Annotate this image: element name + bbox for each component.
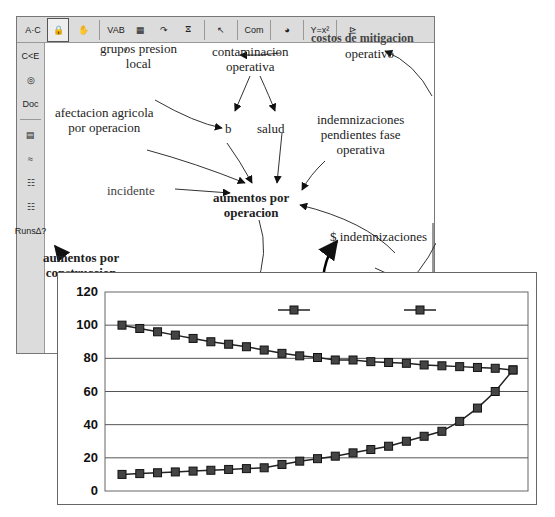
causes-strip-button[interactable]: ▤ (17, 124, 44, 146)
toolbar-separator (270, 20, 271, 40)
node-afectacion[interactable]: afectacion agricola por operacion (55, 105, 154, 135)
box-variable-tool-button[interactable]: ▦ (130, 19, 150, 41)
variable-tool-icon: VAB (107, 25, 124, 35)
hand-tool-icon: ✋ (78, 25, 89, 35)
delete-tool-button[interactable]: ◕ (277, 19, 297, 41)
variable-tool-button[interactable]: VAB (106, 19, 126, 41)
sidebar-separator (20, 119, 41, 120)
loops-button[interactable]: ◎ (17, 69, 44, 91)
node-grupos-presion[interactable]: grupos presion local (100, 41, 177, 71)
node-incidente[interactable]: incidente (107, 183, 155, 198)
node-indemnizaciones[interactable]: $ indemnizaciones (330, 229, 427, 244)
table-button[interactable]: ☷ (17, 172, 44, 194)
runs-compare-button[interactable]: Runs∆? (17, 220, 44, 242)
line-chart: 020406080100120 Construcción Imdemnizaci… (57, 272, 537, 505)
rate-tool-button[interactable]: ⧖ (178, 19, 198, 41)
delete-tool-icon: ◕ (284, 25, 289, 35)
document-button[interactable]: Doc (17, 93, 44, 115)
lock-tool-icon: 🔒 (53, 25, 64, 35)
causes-tree-button[interactable]: C<E (17, 45, 44, 67)
node-indemnizaciones-pendientes[interactable]: indemnizaciones pendientes fase operativ… (317, 112, 404, 157)
node-b[interactable]: b (225, 121, 232, 136)
arrow-tool-button[interactable]: ↷ (154, 19, 174, 41)
toolbar-separator (237, 20, 238, 40)
toolbar-separator (204, 20, 205, 40)
node-top-right-cut[interactable]: costos de mitigacion (311, 31, 414, 46)
graph-icon: ≈ (28, 154, 33, 164)
rate-tool-icon: ⧖ (185, 24, 191, 35)
causes-strip-icon: ▤ (26, 130, 35, 140)
toolbar-separator (303, 20, 304, 40)
lock-tool-button[interactable]: 🔒 (47, 18, 69, 42)
text-tool-button[interactable]: A·C (23, 19, 43, 41)
runs-compare-icon: Runs∆? (15, 226, 47, 236)
shadow-variable-tool-button[interactable]: ↖ (211, 19, 231, 41)
text-tool-icon: A·C (25, 25, 41, 35)
arrow-tool-icon: ↷ (160, 25, 168, 35)
table-time-down-button[interactable]: ☷ (17, 196, 44, 218)
table-icon: ☷ (27, 178, 35, 188)
comment-tool-icon: Com (244, 25, 263, 35)
node-salud[interactable]: salud (257, 121, 284, 136)
node-contaminacion[interactable]: contaminacion operativa (212, 44, 289, 74)
hand-tool-button[interactable]: ✋ (73, 19, 93, 41)
comment-tool-button[interactable]: Com (244, 19, 264, 41)
box-variable-tool-icon: ▦ (136, 25, 145, 35)
loops-icon: ◎ (27, 75, 35, 85)
toolbar-separator (99, 20, 100, 40)
node-operativo[interactable]: operativo (345, 46, 394, 61)
graph-button[interactable]: ≈ (17, 148, 44, 170)
document-icon: Doc (22, 99, 38, 109)
causes-tree-icon: C<E (22, 51, 40, 61)
analysis-sidebar: C<E◎Doc▤≈☷☷Runs∆? (17, 43, 45, 353)
shadow-variable-tool-icon: ↖ (217, 25, 225, 35)
plot-area (58, 273, 538, 506)
node-aumentos-operacion[interactable]: aumentos por operacion (213, 190, 289, 220)
table-time-down-icon: ☷ (27, 202, 35, 212)
